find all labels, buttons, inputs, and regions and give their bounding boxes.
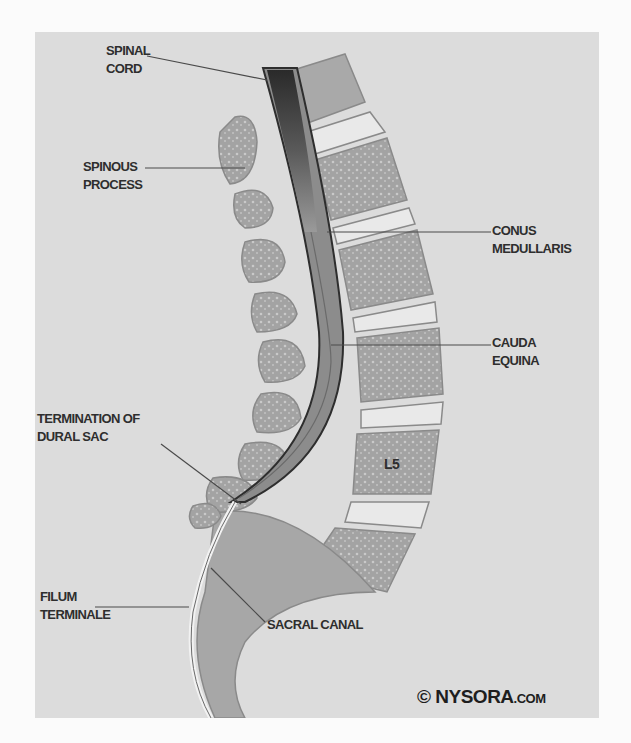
label-spinous-process: SPINOUS PROCESS [83, 158, 142, 194]
copyright-notice: © NYSORA.COM [417, 686, 546, 708]
label-line: SPINOUS [83, 158, 142, 176]
label-line: TERMINALE [40, 606, 110, 624]
label-cauda-equina: CAUDA EQUINA [492, 334, 539, 370]
label-line: CAUDA [492, 334, 539, 352]
copyright-suffix: .COM [514, 691, 546, 706]
label-sacral-canal: SACRAL CANAL [267, 616, 363, 634]
label-line: TERMINATION OF [37, 410, 140, 428]
label-line: PROCESS [83, 176, 142, 194]
label-line: FILUM [40, 588, 110, 606]
label-conus-medullaris: CONUS MEDULLARIS [492, 222, 571, 258]
copyright-icon: © [417, 686, 431, 707]
label-l5: L5 [384, 455, 399, 473]
label-line: MEDULLARIS [492, 240, 571, 258]
diagram-frame: SPINAL CORD SPINOUS PROCESS CONUS MEDULL… [35, 32, 599, 718]
copyright-brand: NYSORA [435, 686, 513, 707]
label-line: DURAL SAC [37, 428, 140, 446]
label-line: EQUINA [492, 352, 539, 370]
label-line: CORD [106, 60, 150, 78]
label-line: CONUS [492, 222, 571, 240]
label-line: SPINAL [106, 42, 150, 60]
label-filum-terminale: FILUM TERMINALE [40, 588, 110, 624]
label-termination-dural-sac: TERMINATION OF DURAL SAC [37, 410, 140, 446]
label-spinal-cord: SPINAL CORD [106, 42, 150, 78]
